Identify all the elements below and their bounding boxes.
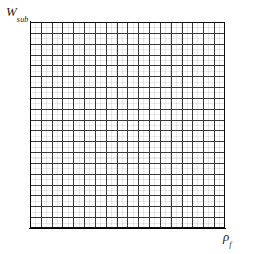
y-axis-spine bbox=[30, 21, 32, 229]
x-axis-spine bbox=[29, 228, 226, 230]
y-axis-label-subscript: sub bbox=[17, 15, 29, 24]
y-axis-label-base: W bbox=[6, 4, 17, 19]
x-axis-label: ρf bbox=[223, 230, 232, 247]
y-axis-label: Wsub bbox=[6, 5, 29, 22]
plot-grid-area bbox=[30, 22, 225, 228]
x-axis-label-subscript: f bbox=[229, 240, 231, 249]
figure-canvas: Wsub ρf bbox=[0, 0, 253, 254]
